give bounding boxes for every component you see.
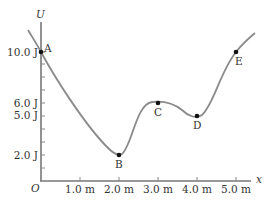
x-tick-label: 5.0 m — [221, 183, 251, 195]
point-c-label: C — [154, 106, 162, 118]
y-tick-label: 6.0 J — [14, 97, 38, 109]
point-b — [117, 153, 122, 158]
point-a — [39, 50, 44, 55]
point-c — [156, 101, 161, 106]
y-axis-title: U — [36, 8, 46, 20]
y-tick-label: 10.0 J — [7, 46, 38, 58]
origin-label: O — [31, 182, 40, 194]
point-a-label: A — [43, 42, 52, 54]
x-tick-label: 3.0 m — [143, 183, 173, 195]
point-d-label: D — [193, 119, 201, 131]
point-d — [195, 114, 200, 119]
potential-energy-chart: A B C D E U x O 10.0 J 6.0 J 5.0 J 2.0 J… — [0, 0, 277, 201]
x-tick-label: 4.0 m — [182, 183, 212, 195]
x-axis-title: x — [256, 173, 262, 185]
x-tick-label: 1.0 m — [65, 183, 95, 195]
point-b-label: B — [115, 158, 123, 170]
point-e — [234, 50, 239, 55]
potential-energy-curve — [28, 30, 255, 155]
y-tick-label: 2.0 J — [14, 149, 38, 161]
x-tick-label: 2.0 m — [104, 183, 134, 195]
point-e-label: E — [235, 55, 243, 67]
y-tick-label: 5.0 J — [14, 109, 38, 121]
